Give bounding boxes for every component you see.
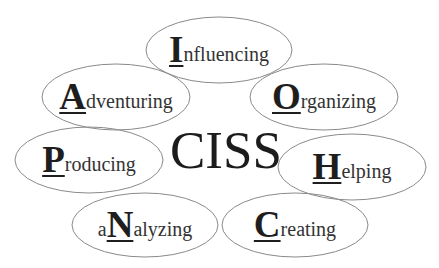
- node-label-rest: roducing: [65, 154, 136, 175]
- node-label-rest: rganizing: [301, 91, 376, 112]
- node-initial: N: [107, 210, 134, 240]
- node-initial: C: [254, 210, 281, 240]
- node-organizing: O rganizing: [250, 80, 398, 112]
- node-label-rest: reating: [281, 219, 337, 240]
- node-creating: C reating: [222, 208, 368, 240]
- node-initial: H: [313, 152, 342, 182]
- node-initial: I: [169, 35, 183, 65]
- ciss-diagram: CISS I nfluencing A dventuring O rganizi…: [0, 0, 439, 268]
- diagram-title: CISS: [170, 124, 282, 177]
- node-prefix: a: [98, 219, 107, 240]
- node-initial: O: [272, 82, 301, 112]
- node-helping: H elping: [278, 150, 426, 182]
- node-label-rest: dventuring: [86, 91, 173, 112]
- node-initial: A: [59, 82, 86, 112]
- node-label-rest: elping: [341, 161, 391, 182]
- node-adventuring: A dventuring: [42, 80, 190, 112]
- node-analyzing: a N alyzing: [72, 208, 218, 240]
- node-label-rest: alyzing: [133, 219, 192, 240]
- node-producing: P roducing: [15, 143, 163, 175]
- node-influencing: I nfluencing: [146, 33, 292, 65]
- node-initial: P: [42, 145, 65, 175]
- node-label-rest: nfluencing: [183, 44, 269, 65]
